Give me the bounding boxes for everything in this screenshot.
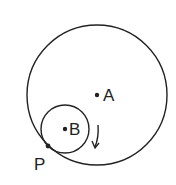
label-a: A [103,86,115,105]
tangent-point-p [46,144,51,149]
rotation-arrow-icon [92,125,99,148]
label-p: P [34,155,45,174]
label-b: B [69,120,80,139]
center-point-b [63,127,67,131]
diagram-canvas: A B P [0,0,176,185]
center-point-a [95,93,99,97]
diagram-stage: A B P [0,0,176,185]
